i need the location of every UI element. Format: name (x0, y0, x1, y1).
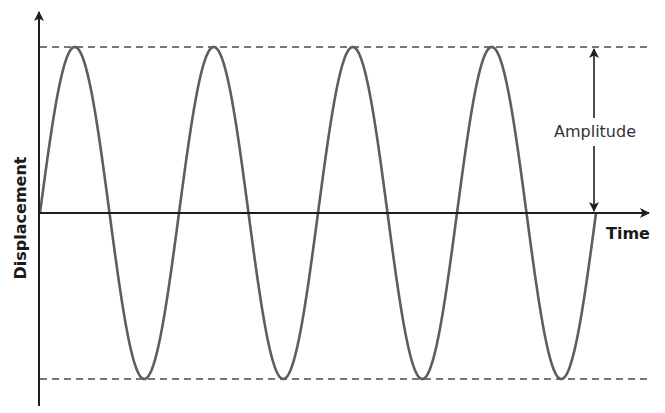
x-axis-label: Time (606, 224, 650, 243)
y-axis-label: Displacement (11, 156, 30, 279)
wave-diagram: Amplitude Time Displacement (0, 0, 665, 413)
amplitude-label: Amplitude (554, 122, 636, 141)
